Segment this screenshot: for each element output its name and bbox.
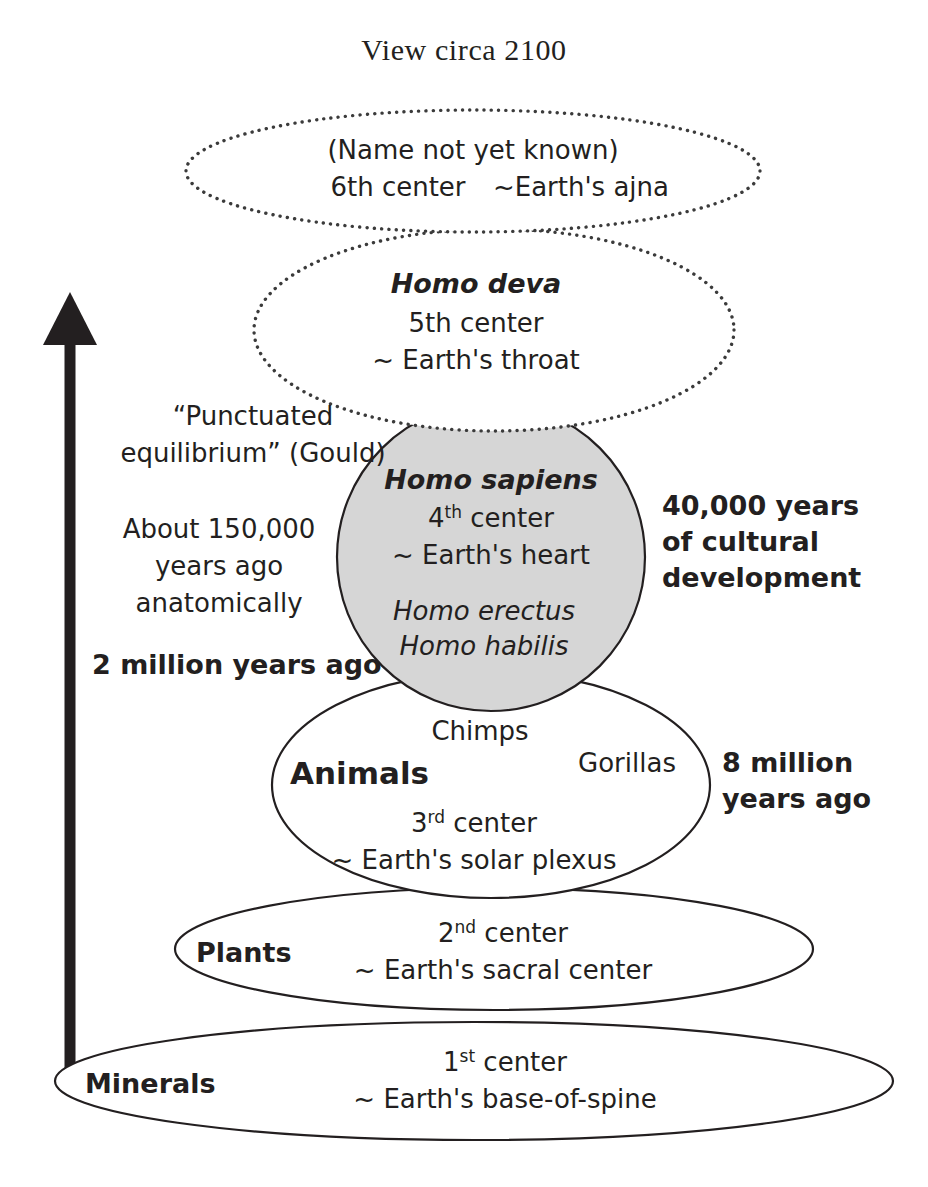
evolution-diagram: View circa 2100 Minerals 1st center ~ Ea…: [0, 0, 928, 1187]
minerals-center-ordinal: st: [460, 1046, 476, 1066]
about-150000-annotation: About 150,000 years ago anatomically: [123, 514, 316, 618]
minerals-earth-label: ~ Earth's base-of-spine: [353, 1084, 656, 1114]
eight-million-years-annotation: 8 million years ago: [722, 747, 871, 814]
about-line-3: anatomically: [135, 588, 302, 618]
sixth-name-label: (Name not yet known): [327, 135, 618, 165]
plants-center-ordinal: nd: [455, 917, 477, 937]
two-million-years-label: 2 million years ago: [92, 649, 382, 680]
animals-center-ordinal: rd: [428, 807, 445, 827]
punctuated-line-1: “Punctuated: [173, 401, 333, 431]
sapiens-center-word: center: [470, 503, 554, 533]
cultural-line-2: of cultural: [662, 526, 819, 557]
sixth-center-ellipse[interactable]: [186, 110, 760, 232]
cultural-development-annotation: 40,000 years of cultural development: [662, 490, 861, 593]
minerals-center-number: 1: [443, 1047, 460, 1077]
eight-million-line-2: years ago: [722, 783, 871, 814]
upward-evolution-arrow: [43, 292, 97, 1092]
minerals-label: Minerals: [85, 1068, 216, 1099]
punctuated-equilibrium-annotation: “Punctuated equilibrium” (Gould): [120, 401, 385, 468]
deva-earth-label: ~ Earth's throat: [372, 345, 580, 375]
plants-center-word: center: [484, 918, 568, 948]
gorillas-label: Gorillas: [578, 748, 676, 778]
sapiens-center-number: 4: [428, 503, 445, 533]
sapiens-earth-label: ~ Earth's heart: [392, 540, 590, 570]
homo-sapiens-label: Homo sapiens: [384, 464, 598, 495]
animals-center-number: 3: [411, 808, 428, 838]
animals-label: Animals: [290, 755, 429, 791]
animals-center-word: center: [453, 808, 537, 838]
plants-earth-label: ~ Earth's sacral center: [354, 955, 653, 985]
sixth-earth-label: ~Earth's ajna: [493, 172, 669, 202]
eight-million-line-1: 8 million: [722, 747, 853, 778]
about-line-2: years ago: [155, 551, 283, 581]
diagram-canvas: View circa 2100 Minerals 1st center ~ Ea…: [0, 0, 928, 1187]
about-line-1: About 150,000: [123, 514, 316, 544]
punctuated-line-2: equilibrium” (Gould): [120, 438, 385, 468]
chimps-label: Chimps: [431, 716, 528, 746]
level-plants[interactable]: Plants 2nd center ~ Earth's sacral cente…: [175, 888, 813, 1010]
level-sixth-center[interactable]: (Name not yet known) 6th center ~Earth's…: [186, 110, 760, 232]
homo-habilis-label: Homo habilis: [399, 631, 568, 661]
animals-earth-label: ~ Earth's solar plexus: [332, 845, 617, 875]
arrow-head-icon: [43, 292, 97, 345]
sixth-center-label: 6th center: [330, 172, 465, 202]
homo-erectus-label: Homo erectus: [393, 596, 575, 626]
plants-center-number: 2: [438, 918, 455, 948]
deva-center-label: 5th center: [408, 308, 543, 338]
cultural-line-1: 40,000 years: [662, 490, 859, 521]
sapiens-center-ordinal: th: [445, 502, 462, 522]
cultural-line-3: development: [662, 562, 861, 593]
level-minerals[interactable]: Minerals 1st center ~ Earth's base-of-sp…: [55, 1022, 893, 1140]
page-title: View circa 2100: [361, 33, 566, 66]
plants-label: Plants: [196, 937, 291, 968]
homo-deva-label: Homo deva: [391, 268, 562, 299]
minerals-center-word: center: [483, 1047, 567, 1077]
